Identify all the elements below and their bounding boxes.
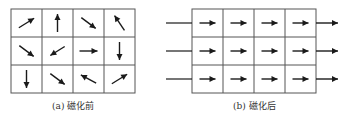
field-arrow-out-icon-head <box>332 48 338 54</box>
domain-arrow-right-icon-head <box>241 20 247 26</box>
caption-before-magnetization: (a) 磁化前 <box>52 99 94 112</box>
domain-arrow-right-icon-head <box>241 48 247 54</box>
domain-arrow-right-icon-head <box>241 76 247 82</box>
domain-arrow-right-icon-head <box>210 76 216 82</box>
domain-arrow-down-icon-head <box>24 82 30 88</box>
field-arrow-out-icon-head <box>332 20 338 26</box>
domain-arrow-down-right-icon-head <box>89 22 96 28</box>
domain-arrow-down-right-icon-head <box>27 50 34 56</box>
domain-arrow-right-icon-head <box>272 20 278 26</box>
domain-arrow-right-icon-head <box>272 76 278 82</box>
domain-arrow-right-icon-head <box>303 48 309 54</box>
domain-arrow-right-icon-head <box>303 76 309 82</box>
domain-arrow-right-icon-head <box>92 48 98 54</box>
domain-arrow-right-icon-head <box>210 48 216 54</box>
domain-arrow-up-icon-head <box>55 14 61 20</box>
domain-arrow-right-icon-head <box>303 20 309 26</box>
domain-arrow-down-right-icon-head <box>58 78 65 84</box>
domain-arrow-right-icon-head <box>272 48 278 54</box>
domain-arrow-right-icon-head <box>210 20 216 26</box>
domain-arrow-down-icon-head <box>117 54 123 60</box>
domain-arrow-up-left-icon-head <box>115 16 121 23</box>
caption-after-magnetization: (b) 磁化后 <box>233 99 276 112</box>
field-arrow-out-icon-head <box>332 76 338 82</box>
